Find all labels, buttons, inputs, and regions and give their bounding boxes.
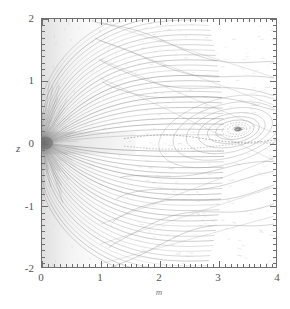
y-tick-left — [42, 144, 48, 145]
velocity-vector — [261, 175, 265, 176]
velocity-vector — [212, 221, 215, 222]
y-tick-right — [273, 225, 276, 226]
x-tick-top — [48, 19, 49, 22]
y-tick-right — [273, 238, 276, 239]
x-tick-bottom — [231, 264, 232, 267]
y-tick-left — [42, 257, 45, 258]
x-tick-bottom — [219, 261, 220, 267]
y-tick-label-neg2: -2 — [14, 263, 34, 274]
y-tick-right — [273, 150, 276, 151]
y-tick-right — [273, 69, 276, 70]
x-tick-bottom — [243, 264, 244, 267]
velocity-vector — [242, 245, 244, 246]
velocity-vector — [232, 39, 236, 40]
y-tick-left — [42, 81, 48, 82]
x-tick-bottom — [107, 264, 108, 267]
y-tick-left — [42, 150, 45, 151]
x-tick-label-3: 3 — [215, 272, 221, 283]
y-tick-left — [42, 63, 45, 64]
y-tick-right — [273, 219, 276, 220]
y-tick-right — [273, 213, 276, 214]
x-tick-bottom — [48, 264, 49, 267]
y-tick-left — [42, 238, 45, 239]
x-tick-bottom — [60, 264, 61, 267]
velocity-vector — [202, 213, 206, 214]
x-tick-top — [254, 19, 255, 22]
y-tick-left — [42, 219, 45, 220]
x-tick-top — [54, 19, 55, 22]
y-tick-right — [270, 144, 276, 145]
y-tick-right — [273, 244, 276, 245]
y-tick-right — [273, 169, 276, 170]
y-tick-left — [42, 56, 45, 57]
x-tick-top — [66, 19, 67, 22]
x-tick-top — [95, 19, 96, 22]
y-tick-left — [42, 206, 48, 207]
y-tick-left — [42, 106, 45, 107]
x-tick-bottom — [166, 264, 167, 267]
y-tick-right — [273, 38, 276, 39]
x-axis-title: m — [156, 288, 163, 297]
velocity-vector — [172, 191, 176, 192]
x-tick-bottom — [72, 264, 73, 267]
y-tick-left — [42, 263, 45, 264]
velocity-vector — [238, 240, 242, 241]
y-tick-right — [273, 263, 276, 264]
y-tick-left — [42, 244, 45, 245]
y-tick-right — [273, 131, 276, 132]
velocity-vector — [270, 235, 275, 236]
x-tick-top — [178, 19, 179, 22]
x-tick-bottom — [190, 264, 191, 267]
x-tick-top — [243, 19, 244, 22]
velocity-vector — [259, 230, 263, 231]
x-tick-bottom — [266, 264, 267, 267]
velocity-vector — [166, 234, 169, 235]
x-tick-top — [190, 19, 191, 22]
y-tick-label-0: 0 — [20, 138, 34, 149]
x-tick-bottom — [184, 264, 185, 267]
x-tick-bottom — [172, 264, 173, 267]
x-tick-bottom — [254, 264, 255, 267]
x-tick-bottom — [207, 264, 208, 267]
y-tick-left — [42, 19, 48, 20]
x-tick-label-4: 4 — [274, 272, 280, 283]
velocity-vector — [144, 148, 149, 149]
y-tick-right — [273, 119, 276, 120]
y-tick-left — [42, 88, 45, 89]
x-tick-top — [83, 19, 84, 22]
y-tick-left — [42, 188, 45, 189]
velocity-vector — [266, 210, 269, 211]
x-tick-bottom — [201, 264, 202, 267]
velocity-vector — [136, 233, 139, 234]
velocity-vector — [253, 93, 257, 94]
y-tick-right — [273, 194, 276, 195]
x-tick-top — [166, 19, 167, 22]
y-tick-right — [273, 125, 276, 126]
y-tick-left — [42, 156, 45, 157]
y-tick-right — [273, 156, 276, 157]
velocity-vector — [260, 232, 264, 233]
y-tick-left — [42, 38, 45, 39]
x-tick-top — [101, 19, 102, 25]
x-tick-top — [231, 19, 232, 22]
y-tick-right — [273, 138, 276, 139]
velocity-vector — [162, 226, 166, 227]
x-tick-bottom — [54, 264, 55, 267]
x-tick-top — [148, 19, 149, 22]
x-tick-bottom — [89, 264, 90, 267]
x-tick-label-2: 2 — [156, 272, 162, 283]
x-tick-top — [142, 19, 143, 22]
y-tick-right — [273, 50, 276, 51]
x-tick-bottom — [148, 264, 149, 267]
velocity-vector — [244, 257, 249, 258]
y-tick-left — [42, 119, 45, 120]
x-tick-bottom — [213, 264, 214, 267]
velocity-vector — [137, 257, 142, 258]
y-tick-right — [273, 257, 276, 258]
y-tick-left — [42, 75, 45, 76]
x-tick-bottom — [260, 264, 261, 267]
x-tick-top — [172, 19, 173, 22]
y-tick-left — [42, 231, 45, 232]
y-tick-left — [42, 200, 45, 201]
y-tick-left — [42, 44, 45, 45]
